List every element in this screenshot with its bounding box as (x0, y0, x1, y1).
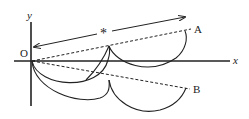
arc-ob-2 (109, 80, 186, 111)
point-b-label: B (193, 83, 200, 95)
y-axis-label: y (26, 9, 32, 21)
diagram-canvas: y x O A B * (0, 0, 249, 119)
line-ob (32, 61, 190, 89)
origin-label: O (20, 47, 28, 59)
line-oa (32, 29, 191, 61)
diagram: y x O A B * (0, 0, 249, 119)
arrow-right-segment (112, 17, 185, 31)
x-axis-label: x (232, 54, 238, 66)
arc-oa-1 (32, 46, 110, 83)
point-a-label: A (194, 23, 202, 35)
marker-asterisk: * (100, 26, 107, 41)
arrow-left-segment (34, 34, 97, 47)
